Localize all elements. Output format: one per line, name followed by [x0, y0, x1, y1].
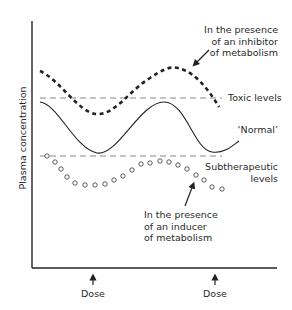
dose-label-1: Dose: [81, 288, 105, 300]
inhibitor-curve: [40, 67, 219, 114]
inducer-label-line1: In the presence: [144, 209, 218, 221]
toxic-levels-label: Toxic levels: [228, 92, 282, 104]
inhibitor-label-line3: of metabolism: [196, 47, 278, 59]
inducer-curve: [45, 154, 224, 191]
subtherapeutic-label-line2: levels: [200, 173, 278, 185]
inducer-label: In the presence of an inducer of metabol…: [144, 209, 218, 244]
normal-curve: [40, 102, 239, 153]
dose-label-2: Dose: [203, 288, 227, 300]
subtherapeutic-label: Subtherapeutic levels: [200, 161, 278, 184]
subtherapeutic-label-line1: Subtherapeutic: [200, 161, 278, 173]
inducer-label-line2: of an inducer: [144, 221, 218, 233]
inducer-label-line3: of metabolism: [144, 232, 218, 244]
inhibitor-label-line2: of an inhibitor: [196, 36, 278, 48]
inhibitor-label-line1: In the presence: [196, 24, 278, 36]
inhibitor-label: In the presence of an inhibitor of metab…: [196, 24, 278, 59]
inducer-arrow: [185, 185, 193, 206]
normal-label: ‘Normal’: [228, 124, 278, 136]
y-axis-label: Plasma concentration: [17, 90, 28, 190]
